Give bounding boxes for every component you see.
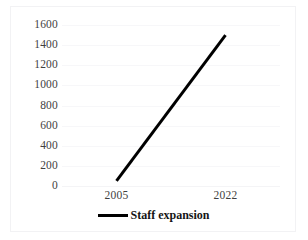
y-axis-tick-label: 1400 bbox=[34, 39, 58, 51]
series-line-staff-expansion bbox=[117, 35, 226, 181]
y-axis-tick-label: 800 bbox=[40, 100, 58, 112]
x-axis-tick-label: 2005 bbox=[105, 190, 129, 202]
x-axis: 2005 2022 bbox=[62, 190, 280, 208]
legend-item-label: Staff expansion bbox=[130, 209, 209, 221]
plot-area bbox=[62, 25, 280, 186]
y-axis-tick-label: 1000 bbox=[34, 80, 58, 92]
gridline-baseline bbox=[62, 186, 280, 187]
y-axis: 1600 1400 1200 1000 800 600 400 200 0 bbox=[14, 25, 58, 186]
chart-legend: Staff expansion bbox=[0, 209, 308, 221]
legend-item-staff-expansion: Staff expansion bbox=[98, 209, 209, 221]
y-axis-tick-label: 0 bbox=[52, 180, 58, 192]
y-axis-tick-label: 1200 bbox=[34, 60, 58, 72]
chart-figure: 1600 1400 1200 1000 800 600 400 200 0 20… bbox=[0, 0, 308, 240]
y-axis-tick-label: 400 bbox=[40, 140, 58, 152]
y-axis-tick-label: 200 bbox=[40, 160, 58, 172]
series-plot bbox=[62, 25, 280, 186]
y-axis-tick-label: 600 bbox=[40, 120, 58, 132]
x-axis-tick-label: 2022 bbox=[214, 190, 238, 202]
y-axis-tick-label: 1600 bbox=[34, 19, 58, 31]
line-marker-icon bbox=[98, 214, 128, 217]
